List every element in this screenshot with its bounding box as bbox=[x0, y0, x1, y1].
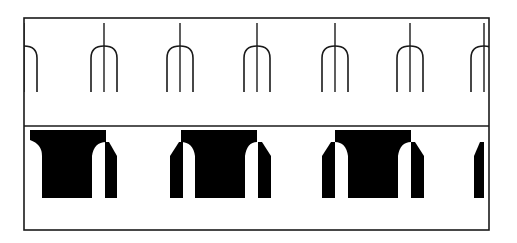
tooth-piece bbox=[170, 142, 183, 198]
tooth-piece bbox=[105, 142, 117, 198]
fork-element bbox=[322, 23, 348, 92]
top-strip-forks bbox=[11, 23, 497, 92]
fork-element bbox=[471, 23, 497, 92]
bottom-strip-blocks bbox=[30, 130, 484, 198]
fork-element bbox=[244, 23, 270, 92]
tooth-piece bbox=[258, 142, 271, 198]
pattern-diagram bbox=[0, 0, 517, 243]
tooth-piece bbox=[322, 142, 335, 198]
fork-element bbox=[91, 23, 117, 92]
tooth-piece bbox=[411, 142, 424, 198]
t-block bbox=[181, 130, 257, 198]
t-block bbox=[30, 130, 106, 198]
tooth-piece bbox=[474, 142, 484, 198]
fork-element bbox=[397, 23, 423, 92]
t-block bbox=[335, 130, 411, 198]
fork-element bbox=[11, 23, 37, 92]
fork-element bbox=[167, 23, 193, 92]
